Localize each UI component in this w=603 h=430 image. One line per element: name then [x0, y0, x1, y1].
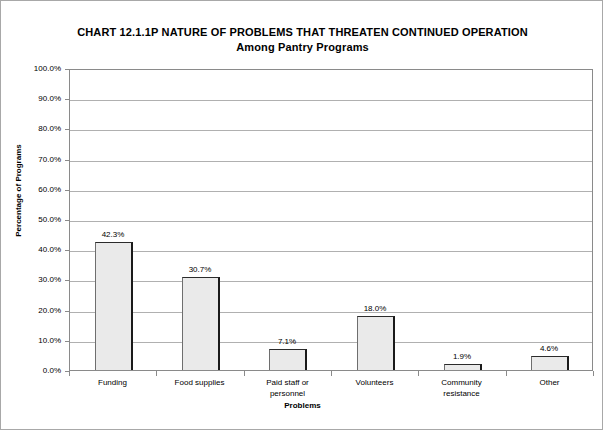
gridline [70, 191, 592, 192]
chart-title-line1: CHART 12.1.1P NATURE OF PROBLEMS THAT TH… [77, 26, 528, 38]
x-axis-tick [69, 371, 70, 376]
x-axis-category-label: Communityresistance [418, 377, 505, 399]
x-axis-category-label-line: personnel [244, 388, 331, 399]
chart-title: CHART 12.1.1P NATURE OF PROBLEMS THAT TH… [1, 25, 603, 55]
chart-container: CHART 12.1.1P NATURE OF PROBLEMS THAT TH… [0, 0, 603, 430]
bar-value-label: 4.6% [519, 344, 579, 353]
bar[interactable] [357, 316, 395, 370]
bar[interactable] [444, 364, 482, 370]
x-axis-category-label-line: Community [418, 377, 505, 388]
gridline [70, 100, 592, 101]
y-axis-tick-label: 50.0% [5, 215, 61, 224]
gridline [70, 251, 592, 252]
x-axis-tick [244, 371, 245, 376]
x-axis-tick [506, 371, 507, 376]
x-axis-category-label-line: Food supplies [156, 377, 243, 388]
x-axis-category-label: Food supplies [156, 377, 243, 388]
gridline [70, 130, 592, 131]
x-axis-tick [331, 371, 332, 376]
bar-value-label: 18.0% [345, 304, 405, 313]
gridline [70, 281, 592, 282]
bar[interactable] [269, 349, 307, 370]
x-axis-title: Problems [1, 401, 603, 410]
y-axis-tick-label: 60.0% [5, 185, 61, 194]
bar-value-label: 1.9% [432, 352, 492, 361]
gridline [70, 312, 592, 313]
plot-area [69, 69, 593, 371]
x-axis-category-label: Other [506, 377, 593, 388]
x-axis-tick [593, 371, 594, 376]
y-axis-tick-label: 100.0% [5, 64, 61, 73]
x-axis-category-label-line: Funding [69, 377, 156, 388]
x-axis-category-label-line: Paid staff or [244, 377, 331, 388]
y-axis-tick-label: 10.0% [5, 336, 61, 345]
y-axis-tick-label: 40.0% [5, 245, 61, 254]
y-axis-tick-label: 20.0% [5, 306, 61, 315]
gridline [70, 161, 592, 162]
gridline [70, 221, 592, 222]
x-axis-category-label-line: Other [506, 377, 593, 388]
x-axis-tick [156, 371, 157, 376]
x-axis-category-label-line: resistance [418, 388, 505, 399]
bar[interactable] [182, 277, 220, 370]
x-axis-category-label: Paid staff orpersonnel [244, 377, 331, 399]
bar[interactable] [95, 242, 133, 370]
x-axis-category-label-line: Volunteers [331, 377, 418, 388]
y-axis-tick-label: 0.0% [5, 366, 61, 375]
bar-value-label: 30.7% [170, 265, 230, 274]
x-axis-category-label: Funding [69, 377, 156, 388]
y-axis-tick-label: 30.0% [5, 275, 61, 284]
bar[interactable] [531, 356, 569, 370]
y-axis-tick-label: 70.0% [5, 155, 61, 164]
x-axis-tick [418, 371, 419, 376]
bar-value-label: 42.3% [83, 230, 143, 239]
y-axis-tick-label: 90.0% [5, 94, 61, 103]
x-axis-category-label: Volunteers [331, 377, 418, 388]
bar-value-label: 7.1% [257, 337, 317, 346]
y-axis-tick-label: 80.0% [5, 124, 61, 133]
chart-subtitle: Among Pantry Programs [1, 40, 603, 55]
gridline [70, 342, 592, 343]
